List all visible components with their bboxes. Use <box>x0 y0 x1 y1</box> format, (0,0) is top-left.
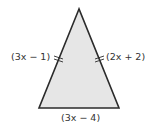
right-side-label: (2x + 2) <box>106 52 145 62</box>
left-side-label: (3x − 1) <box>11 52 50 62</box>
triangle-figure <box>0 0 150 129</box>
base-label: (3x − 4) <box>61 113 100 123</box>
